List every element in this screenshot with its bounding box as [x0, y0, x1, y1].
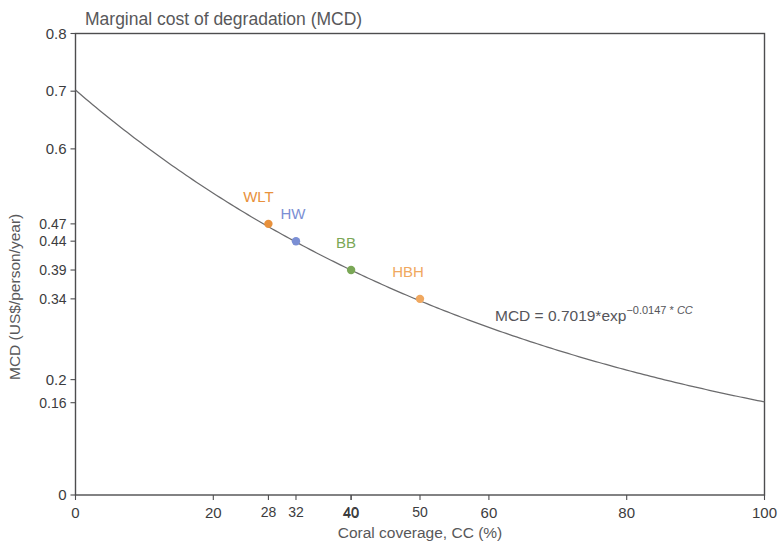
equation-annotation: MCD = 0.7019*exp−0.0147 * CC: [495, 304, 693, 324]
y-tick-label: 0: [58, 486, 66, 503]
x-axis-ticks: 02040608010028324050: [71, 495, 777, 521]
y-axis-ticks: 00.20.60.70.80.470.440.390.340.16: [39, 25, 75, 504]
y-tick-label: 0.8: [46, 25, 67, 42]
chart-title: Marginal cost of degradation (MCD): [85, 9, 362, 29]
y-tick-label: 0.39: [39, 262, 66, 278]
y-tick-label: 0.16: [39, 395, 66, 411]
data-point-wlt[interactable]: [264, 220, 272, 228]
x-tick-label-highlight: 32: [288, 504, 304, 520]
data-point-label-hbh: HBH: [392, 263, 424, 280]
y-tick-label: 0.44: [39, 233, 66, 249]
equation-exponent: −0.0147 *: [626, 304, 676, 316]
y-tick-label: 0.7: [46, 82, 67, 99]
data-point-label-wlt: WLT: [243, 188, 274, 205]
mcd-curve-chart: Marginal cost of degradation (MCD) MCD (…: [0, 0, 782, 545]
data-point-hw[interactable]: [292, 237, 300, 245]
chart-figure: Marginal cost of degradation (MCD) MCD (…: [0, 0, 782, 545]
data-point-label-hw: HW: [280, 205, 306, 222]
equation-lead: MCD = 0.7019*exp: [495, 307, 626, 324]
data-point-group: WLTHWBBHBH: [243, 188, 424, 303]
data-point-hbh[interactable]: [416, 295, 424, 303]
y-tick-label: 0.2: [46, 371, 67, 388]
x-axis-title: Coral coverage, CC (%): [338, 524, 503, 541]
mcd-decay-curve: [76, 90, 765, 402]
x-tick-label-highlight: 50: [412, 504, 428, 520]
x-tick-label-highlight: 40: [343, 504, 359, 520]
y-tick-label: 0.47: [39, 216, 66, 232]
x-tick-label-highlight: 28: [261, 504, 277, 520]
x-tick-label: 0: [71, 504, 79, 521]
data-point-label-bb: BB: [336, 234, 356, 251]
x-tick-label: 100: [752, 504, 777, 521]
y-tick-label: 0.6: [46, 140, 67, 157]
x-tick-label: 60: [481, 504, 498, 521]
equation-exponent-variable: CC: [677, 304, 693, 316]
x-tick-label: 80: [618, 504, 635, 521]
y-axis-title: MCD (US$/person/year): [6, 214, 23, 380]
y-tick-label: 0.34: [39, 291, 66, 307]
data-point-bb[interactable]: [347, 266, 355, 274]
x-tick-label: 20: [205, 504, 222, 521]
